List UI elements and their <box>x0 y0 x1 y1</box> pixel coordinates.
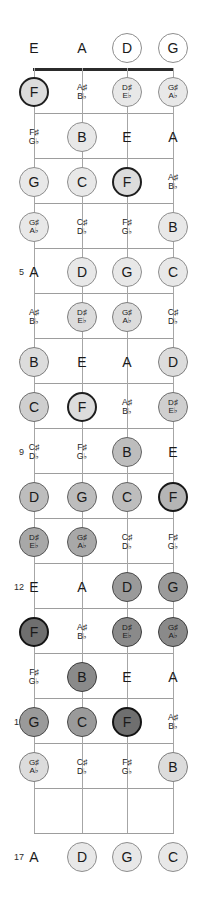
fret-line-5 <box>34 293 174 294</box>
note-C-f3-s2[interactable]: C <box>67 167 97 197</box>
note-Gsharp-f4-s1[interactable]: G♯A♭ <box>19 212 49 242</box>
fret-number-12: 12 <box>2 582 24 592</box>
note-label: E <box>122 673 131 682</box>
note-flat-label: B♭ <box>77 92 87 101</box>
note-D-f12-s3[interactable]: D <box>112 572 142 602</box>
note-B-f9-s3[interactable]: B <box>112 437 142 467</box>
note-flat-label: D♭ <box>168 317 178 326</box>
note-Gsharp-f13-s4[interactable]: G♯A♭ <box>158 617 188 647</box>
note-B-f2-s2[interactable]: B <box>67 122 97 152</box>
note-G-f10-s2[interactable]: G <box>67 482 97 512</box>
note-A-f7-s3[interactable]: A <box>122 358 131 367</box>
note-label: D <box>77 268 87 277</box>
note-F-f1-s1[interactable]: F <box>19 77 49 107</box>
note-Dsharp-f6-s2[interactable]: D♯E♭ <box>67 302 97 332</box>
note-label: A <box>77 44 86 53</box>
note-B-f4-s4[interactable]: B <box>158 212 188 242</box>
note-Dsharp-f1-s3[interactable]: D♯E♭ <box>112 77 142 107</box>
note-Gsharp-f11-s2[interactable]: G♯A♭ <box>67 527 97 557</box>
note-D-f17-s2[interactable]: D <box>67 842 97 872</box>
fret-number-17: 17 <box>2 852 24 862</box>
note-label: G <box>77 493 88 502</box>
note-F-f8-s2[interactable]: F <box>67 392 97 422</box>
note-F-f13-s1[interactable]: F <box>19 617 49 647</box>
note-Gsharp-f1-s4[interactable]: G♯A♭ <box>158 77 188 107</box>
note-E-f7-s2[interactable]: E <box>77 358 86 367</box>
note-A-f14-s4[interactable]: A <box>168 673 177 682</box>
note-Asharp-f15-s4[interactable]: A♯B♭ <box>168 713 178 731</box>
note-A-f5-s1[interactable]: A <box>29 268 38 277</box>
note-label: F <box>123 178 132 187</box>
note-E-f14-s3[interactable]: E <box>122 673 131 682</box>
note-A-f0-s2[interactable]: A <box>77 44 86 53</box>
note-B-f7-s1[interactable]: B <box>19 347 49 377</box>
note-Csharp-f11-s3[interactable]: C♯D♭ <box>122 533 132 551</box>
note-G-f12-s4[interactable]: G <box>158 572 188 602</box>
note-flat-label: E♭ <box>77 317 86 326</box>
fret-line-11 <box>34 563 174 564</box>
note-C-f10-s3[interactable]: C <box>112 482 142 512</box>
note-E-f0-s1[interactable]: E <box>29 44 38 53</box>
note-Fsharp-f14-s1[interactable]: F♯G♭ <box>29 668 40 686</box>
note-D-f0-s3[interactable]: D <box>112 33 142 63</box>
note-C-f5-s4[interactable]: C <box>158 257 188 287</box>
note-Gsharp-f6-s3[interactable]: G♯A♭ <box>112 302 142 332</box>
note-Csharp-f4-s2[interactable]: C♯D♭ <box>77 218 87 236</box>
note-label: G <box>29 718 40 727</box>
note-Fsharp-f9-s2[interactable]: F♯G♭ <box>77 443 88 461</box>
fret-line-3 <box>34 203 174 204</box>
fret-line-10 <box>34 518 174 519</box>
note-G-f15-s1[interactable]: G <box>19 707 49 737</box>
fret-line-13 <box>34 653 174 654</box>
note-A-f12-s2[interactable]: A <box>77 583 86 592</box>
note-G-f3-s1[interactable]: G <box>19 167 49 197</box>
note-label: E <box>29 583 38 592</box>
note-G-f17-s3[interactable]: G <box>112 842 142 872</box>
note-C-f17-s4[interactable]: C <box>158 842 188 872</box>
note-B-f16-s4[interactable]: B <box>158 752 188 782</box>
note-flat-label: A♭ <box>29 767 38 776</box>
fret-line-6 <box>34 338 174 339</box>
note-Csharp-f9-s1[interactable]: C♯D♭ <box>29 443 39 461</box>
note-Dsharp-f13-s3[interactable]: D♯E♭ <box>112 617 142 647</box>
note-Csharp-f6-s4[interactable]: C♯D♭ <box>168 308 178 326</box>
note-Fsharp-f2-s1[interactable]: F♯G♭ <box>29 128 40 146</box>
note-D-f10-s1[interactable]: D <box>19 482 49 512</box>
note-flat-label: G♭ <box>122 767 133 776</box>
note-label: E <box>29 44 38 53</box>
note-A-f2-s4[interactable]: A <box>168 133 177 142</box>
note-Asharp-f1-s2[interactable]: A♯B♭ <box>77 83 87 101</box>
note-Fsharp-f11-s4[interactable]: F♯G♭ <box>168 533 179 551</box>
note-Asharp-f8-s3[interactable]: A♯B♭ <box>122 398 132 416</box>
note-D-f5-s2[interactable]: D <box>67 257 97 287</box>
note-Dsharp-f8-s4[interactable]: D♯E♭ <box>158 392 188 422</box>
note-label: B <box>77 133 86 142</box>
note-flat-label: A♭ <box>168 632 177 641</box>
note-G-f0-s4[interactable]: G <box>158 33 188 63</box>
note-flat-label: D♭ <box>77 227 87 236</box>
note-E-f12-s1[interactable]: E <box>29 583 38 592</box>
note-D-f7-s4[interactable]: D <box>158 347 188 377</box>
note-E-f2-s3[interactable]: E <box>122 133 131 142</box>
note-C-f8-s1[interactable]: C <box>19 392 49 422</box>
note-Dsharp-f11-s1[interactable]: D♯E♭ <box>19 527 49 557</box>
note-Asharp-f3-s4[interactable]: A♯B♭ <box>168 173 178 191</box>
note-label: C <box>77 718 87 727</box>
note-F-f3-s3[interactable]: F <box>112 167 142 197</box>
note-C-f15-s2[interactable]: C <box>67 707 97 737</box>
note-E-f9-s4[interactable]: E <box>168 448 177 457</box>
note-Asharp-f13-s2[interactable]: A♯B♭ <box>77 623 87 641</box>
note-flat-label: A♭ <box>77 542 86 551</box>
note-F-f10-s4[interactable]: F <box>158 482 188 512</box>
note-G-f5-s3[interactable]: G <box>112 257 142 287</box>
note-Csharp-f16-s2[interactable]: C♯D♭ <box>77 758 87 776</box>
note-flat-label: E♭ <box>29 542 38 551</box>
note-Gsharp-f16-s1[interactable]: G♯A♭ <box>19 752 49 782</box>
note-Asharp-f6-s1[interactable]: A♯B♭ <box>29 308 39 326</box>
note-A-f17-s1[interactable]: A <box>29 853 38 862</box>
note-label: C <box>77 178 87 187</box>
note-B-f14-s2[interactable]: B <box>67 662 97 692</box>
note-F-f15-s3[interactable]: F <box>112 707 142 737</box>
note-Fsharp-f16-s3[interactable]: F♯G♭ <box>122 758 133 776</box>
note-Fsharp-f4-s3[interactable]: F♯G♭ <box>122 218 133 236</box>
